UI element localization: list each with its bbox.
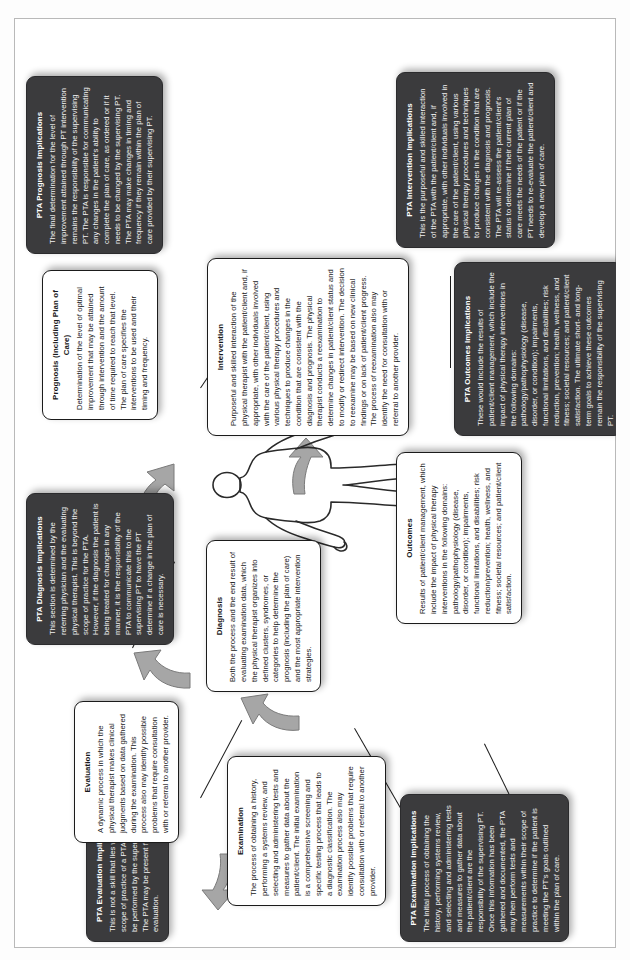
- node-title: Intervention: [215, 268, 226, 426]
- node-title: PTA Intervention Implications: [404, 82, 415, 238]
- node-body: Both the process and the end result of e…: [228, 550, 314, 682]
- node-pta-diagnosis-implications: PTA Diagnosis Implications This section …: [26, 493, 174, 645]
- node-diagnosis: Diagnosis Both the process and the end r…: [206, 540, 321, 692]
- node-body: The initial process of obtaining the his…: [422, 804, 562, 932]
- node-body: The process of obtaining a history, perf…: [249, 766, 378, 896]
- node-pta-prognosis-implications: PTA Prognosis Implications The final det…: [26, 76, 163, 254]
- node-pta-intervention-implications: PTA Intervention Implications This is th…: [396, 72, 555, 248]
- node-title: PTA Prognosis Implications: [34, 86, 45, 244]
- node-body: Determination of the level of optimal im…: [75, 280, 150, 410]
- node-body: Purposeful and skilled interaction of th…: [229, 268, 402, 426]
- node-evaluation: Evaluation A dynamic process in which th…: [74, 701, 179, 843]
- node-body: This is the purposeful and skilled inter…: [418, 82, 547, 238]
- diagram-canvas: PTA Examination Implications The initial…: [14, 18, 616, 948]
- node-title: Examination: [235, 766, 246, 896]
- node-body: This section is determined by the referr…: [48, 503, 167, 635]
- node-examination: Examination The process of obtaining a h…: [227, 756, 386, 906]
- node-pta-outcomes-implications: PTA Outcomes Implications These would in…: [454, 262, 616, 436]
- node-title: PTA Examination Implications: [408, 804, 419, 932]
- node-outcomes: Outcomes Results of patient/client manag…: [396, 452, 522, 624]
- node-prognosis: Prognosis (Including Plan of Care) Deter…: [42, 270, 158, 420]
- rotated-diagram-wrapper: PTA Examination Implications The initial…: [14, 18, 616, 948]
- node-intervention: Intervention Purposeful and skilled inte…: [207, 258, 409, 436]
- node-title: Outcomes: [404, 462, 415, 614]
- node-pta-examination-implications: PTA Examination Implications The initial…: [400, 794, 569, 942]
- node-title: Diagnosis: [214, 550, 225, 682]
- diagram-page: PTA Examination Implications The initial…: [0, 0, 630, 960]
- node-title: PTA Outcomes Implications: [462, 272, 473, 426]
- node-body: A dynamic process in which the physical …: [96, 711, 171, 833]
- node-body: The final determination for the level of…: [48, 86, 156, 244]
- node-title: PTA Diagnosis Implications: [34, 503, 45, 635]
- node-body: These would include the results of patie…: [476, 272, 616, 426]
- node-title: Evaluation: [82, 711, 93, 833]
- node-body: Results of patient/client management, wh…: [418, 462, 515, 614]
- connector-outcomes: [450, 276, 451, 368]
- node-title: Prognosis (Including Plan of Care): [50, 280, 72, 410]
